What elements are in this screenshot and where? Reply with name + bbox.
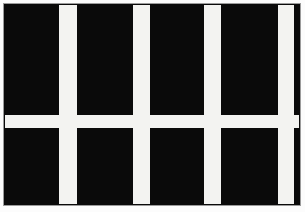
black-striped-field — [3, 3, 301, 206]
vertical-stripe — [204, 5, 221, 204]
vertical-stripe — [278, 5, 294, 204]
vertical-stripe — [59, 5, 77, 204]
image-background — [0, 0, 305, 212]
vertical-stripe — [133, 5, 150, 204]
horizontal-stripe — [5, 115, 299, 128]
